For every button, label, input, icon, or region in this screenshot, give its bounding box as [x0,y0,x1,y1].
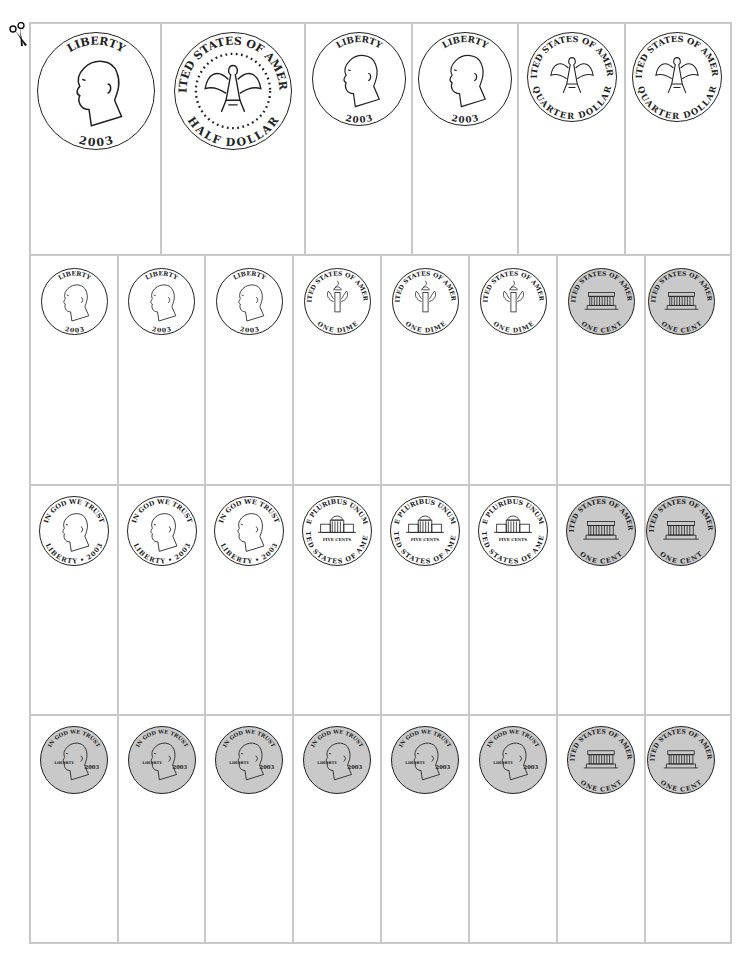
dime-tails-coin: UNITED STATES OF AMERICAONE DIME [392,268,459,335]
svg-text:QUARTER DOLLAR: QUARTER DOLLAR [636,85,719,121]
nickel-heads-coin: IN GOD WE TRUSTLIBERTY • 2003 [39,496,109,566]
svg-text:2003: 2003 [260,764,275,770]
half-dollar-heads-coin: LIBERTY2003 [37,32,155,150]
half-dollar-tails-coin: UNITED STATES OF AMERICAHALF DOLLAR [174,32,292,150]
cutout-cell: UNITED STATES OF AMERICAONE CENT [558,486,646,714]
penny-heads-coin: IN GOD WE TRUST LIBERTY 2003 [303,726,371,794]
svg-text:LIBERTY • 2003: LIBERTY • 2003 [219,541,280,565]
penny-heads-coin: IN GOD WE TRUST LIBERTY 2003 [479,726,547,794]
svg-text:ONE DIME: ONE DIME [492,319,535,333]
cutout-cell: UNITED STATES OF AMERICAONE CENT [646,486,718,714]
svg-text:UNITED STATES OF AMERICA: UNITED STATES OF AMERICA [633,33,720,78]
dime-heads-coin: LIBERTY2003 [41,268,108,335]
quarter-tails-coin: UNITED STATES OF AMERICAQUARTER DOLLAR [632,32,722,122]
svg-text:UNITED STATES OF AMERICA: UNITED STATES OF AMERICA [175,33,290,93]
svg-text:UNITED STATES OF AMERICA: UNITED STATES OF AMERICA [649,269,714,303]
svg-text:2003: 2003 [348,764,363,770]
svg-text:LIBERTY: LIBERTY [493,760,513,765]
cutout-cell: UNITED STATES OF AMERICAONE DIME [294,256,382,484]
svg-text:LIBERTY: LIBERTY [405,760,425,765]
nickel-tails-coin: FIVE CENTSE PLURIBUS UNUMUNITED STATES O… [478,496,548,566]
penny-tails-coin: UNITED STATES OF AMERICAONE CENT [566,496,636,566]
coin-row-nickels-and-pennies: IN GOD WE TRUSTLIBERTY • 2003 IN GOD WE … [31,484,730,714]
quarter-heads-coin: LIBERTY2003 [312,32,406,126]
dime-tails-coin: UNITED STATES OF AMERICAONE DIME [304,268,371,335]
coin-row-pennies: IN GOD WE TRUST LIBERTY 2003 IN GOD WE T… [31,714,730,944]
cutout-cell: IN GOD WE TRUST LIBERTY 2003 [294,716,382,944]
svg-text:LIBERTY • 2003: LIBERTY • 2003 [132,541,193,565]
svg-text:IN GOD WE TRUST: IN GOD WE TRUST [221,729,276,749]
cutout-cell: FIVE CENTSE PLURIBUS UNUMUNITED STATES O… [382,486,470,714]
svg-text:2003: 2003 [436,764,451,770]
cutout-cell: UNITED STATES OF AMERICAONE CENT [646,716,718,944]
cutout-cell: UNITED STATES OF AMERICAHALF DOLLAR [162,24,306,254]
svg-text:LIBERTY: LIBERTY [440,34,490,51]
cutout-cell: UNITED STATES OF AMERICAONE CENT [558,256,646,484]
cutout-cell: FIVE CENTSE PLURIBUS UNUMUNITED STATES O… [294,486,382,714]
penny-heads-coin: IN GOD WE TRUST LIBERTY 2003 [391,726,459,794]
svg-text:LIBERTY: LIBERTY [54,760,74,765]
cutout-cell: IN GOD WE TRUST LIBERTY 2003 [119,716,206,944]
cutout-cell: UNITED STATES OF AMERICAONE DIME [470,256,558,484]
svg-text:LIBERTY: LIBERTY [144,269,180,281]
svg-text:LIBERTY: LIBERTY [57,269,93,281]
svg-text:LIBERTY • 2003: LIBERTY • 2003 [44,541,105,565]
svg-text:E PLURIBUS UNUM: E PLURIBUS UNUM [393,498,458,526]
cutout-cell: IN GOD WE TRUSTLIBERTY • 2003 [31,486,119,714]
svg-text:2003: 2003 [78,134,115,149]
svg-text:FIVE CENTS: FIVE CENTS [499,537,528,542]
quarter-tails-coin: UNITED STATES OF AMERICAQUARTER DOLLAR [527,32,617,122]
dime-heads-coin: LIBERTY2003 [216,268,283,335]
cutout-cell: UNITED STATES OF AMERICAQUARTER DOLLAR [519,24,626,254]
svg-text:IN GOD WE TRUST: IN GOD WE TRUST [217,498,281,525]
svg-text:IN GOD WE TRUST: IN GOD WE TRUST [134,729,189,749]
svg-text:2003: 2003 [173,764,188,770]
svg-text:UNITED STATES OF AMERICA: UNITED STATES OF AMERICA [569,269,634,303]
svg-text:2003: 2003 [64,325,84,333]
quarter-heads-coin: LIBERTY2003 [418,32,512,126]
svg-text:LIBERTY: LIBERTY [229,760,249,765]
cutout-cell: UNITED STATES OF AMERICAQUARTER DOLLAR [626,24,730,254]
nickel-heads-coin: IN GOD WE TRUSTLIBERTY • 2003 [214,496,284,566]
cutout-cell: IN GOD WE TRUSTLIBERTY • 2003 [206,486,294,714]
penny-tails-coin: UNITED STATES OF AMERICAONE CENT [568,268,635,335]
cutout-cell: IN GOD WE TRUST LIBERTY 2003 [382,716,470,944]
cutout-cell: LIBERTY2003 [119,256,206,484]
cutout-cell: UNITED STATES OF AMERICAONE CENT [646,256,718,484]
cutout-cell: IN GOD WE TRUST LIBERTY 2003 [470,716,558,944]
svg-text:2003: 2003 [450,113,479,125]
svg-text:UNITED STATES OF AMERICA: UNITED STATES OF AMERICA [647,497,714,532]
cutout-cell: LIBERTY2003 [306,24,413,254]
nickel-tails-coin: FIVE CENTSE PLURIBUS UNUMUNITED STATES O… [302,496,372,566]
cutout-cell: UNITED STATES OF AMERICAONE CENT [558,716,646,944]
svg-text:UNITED STATES OF AMERICA: UNITED STATES OF AMERICA [568,727,634,761]
svg-text:IN GOD WE TRUST: IN GOD WE TRUST [485,729,540,749]
penny-heads-coin: IN GOD WE TRUST LIBERTY 2003 [128,726,196,794]
svg-text:ONE CENT: ONE CENT [580,319,623,333]
svg-text:UNITED STATES OF AMERICA: UNITED STATES OF AMERICA [648,727,714,761]
scissors-icon [8,22,30,48]
svg-text:LIBERTY: LIBERTY [317,760,337,765]
svg-text:ONE CENT: ONE CENT [578,550,624,565]
svg-text:IN GOD WE TRUST: IN GOD WE TRUST [46,729,101,749]
penny-tails-coin: UNITED STATES OF AMERICAONE CENT [647,726,715,794]
svg-text:LIBERTY: LIBERTY [334,34,384,51]
svg-text:2003: 2003 [524,764,539,770]
dime-heads-coin: LIBERTY2003 [128,268,195,335]
svg-text:ONE CENT: ONE CENT [579,778,622,792]
cutout-cell: IN GOD WE TRUST LIBERTY 2003 [206,716,294,944]
coin-row-half-dollars-and-quarters: LIBERTY2003 UNITED STATES OF AMERICAHALF… [31,24,730,254]
nickel-heads-coin: IN GOD WE TRUSTLIBERTY • 2003 [127,496,197,566]
svg-text:LIBERTY: LIBERTY [65,35,128,56]
svg-text:2003: 2003 [85,764,100,770]
svg-text:IN GOD WE TRUST: IN GOD WE TRUST [309,729,364,749]
svg-text:E PLURIBUS UNUM: E PLURIBUS UNUM [481,498,546,526]
penny-tails-coin: UNITED STATES OF AMERICAONE CENT [648,268,715,335]
svg-text:LIBERTY: LIBERTY [142,760,162,765]
svg-text:IN GOD WE TRUST: IN GOD WE TRUST [397,729,452,749]
svg-text:FIVE CENTS: FIVE CENTS [411,537,440,542]
cutout-cell: LIBERTY2003 [413,24,519,254]
svg-text:ONE DIME: ONE DIME [404,319,447,333]
penny-heads-coin: IN GOD WE TRUST LIBERTY 2003 [215,726,283,794]
svg-text:HALF DOLLAR: HALF DOLLAR [185,114,282,149]
